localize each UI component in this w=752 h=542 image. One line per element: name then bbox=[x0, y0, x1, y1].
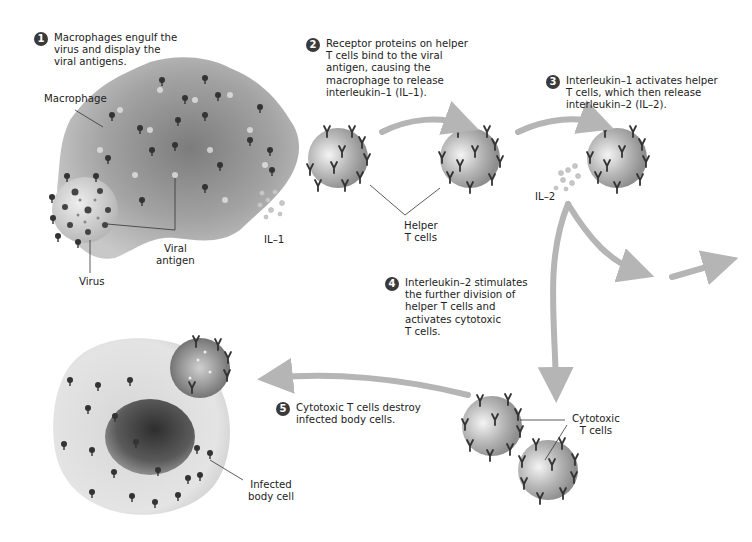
il2-molecules bbox=[554, 164, 581, 192]
step-4-caption: 4 Interleukin–2 stimulates the further d… bbox=[385, 277, 528, 338]
helper-t-cell-1 bbox=[307, 126, 370, 191]
infected-body-cell-illustration bbox=[53, 336, 231, 515]
label-il2: IL–2 bbox=[535, 191, 555, 203]
step-5-text: Cytotoxic T cells destroy infected body … bbox=[276, 402, 421, 426]
step-2-caption: 2 Receptor proteins on helper T cells bi… bbox=[306, 38, 468, 99]
step-3-text: Interleukin–1 activates helper T cells, … bbox=[546, 75, 718, 112]
step-1-badge: 1 bbox=[34, 32, 48, 46]
step-4-badge: 4 bbox=[385, 277, 399, 291]
step-5-badge: 5 bbox=[276, 402, 290, 416]
step-1-caption: 1 Macrophages engulf the virus and displ… bbox=[34, 32, 177, 69]
immune-response-diagram: 1 Macrophages engulf the virus and displ… bbox=[0, 0, 752, 542]
label-infected-body-cell: Infected body cell bbox=[248, 479, 294, 503]
label-virus: Virus bbox=[79, 276, 105, 288]
label-il1: IL–1 bbox=[264, 234, 284, 246]
label-viral-antigen: Viral antigen bbox=[156, 243, 195, 267]
step-4-text: Interleukin–2 stimulates the further div… bbox=[385, 277, 528, 338]
step-1-text: Macrophages engulf the virus and display… bbox=[34, 32, 177, 69]
label-cytotoxic-t-cells: Cytotoxic T cells bbox=[572, 413, 620, 437]
step-3-badge: 3 bbox=[546, 75, 560, 89]
step-2-badge: 2 bbox=[306, 38, 320, 52]
helper-t-cell-2 bbox=[439, 126, 503, 193]
step-3-caption: 3 Interleukin–1 activates helper T cells… bbox=[546, 75, 718, 112]
label-macrophage: Macrophage bbox=[44, 93, 107, 105]
step-5-caption: 5 Cytotoxic T cells destroy infected bod… bbox=[276, 402, 421, 426]
helper-t-cell-3 bbox=[587, 126, 649, 193]
cytotoxic-t-cell-2 bbox=[518, 438, 578, 504]
cytotoxic-t-cell-1 bbox=[462, 394, 523, 461]
step-2-text: Receptor proteins on helper T cells bind… bbox=[306, 38, 468, 99]
label-helper-t-cells: Helper T cells bbox=[404, 220, 438, 244]
